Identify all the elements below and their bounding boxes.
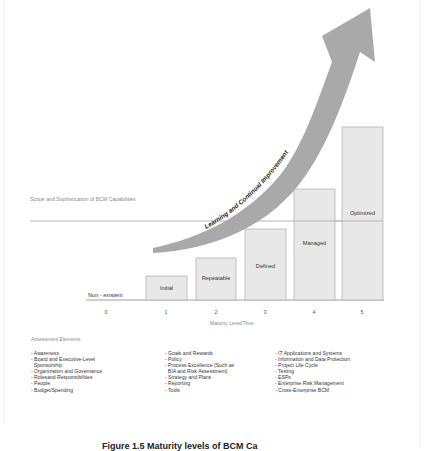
x-tick-1: 1 (156, 309, 176, 315)
level-label-initial: Initial (146, 285, 187, 291)
x-tick-2: 2 (206, 309, 226, 315)
assessment-column-3: - IT Applications and Systems - Informat… (275, 350, 350, 393)
level-label-managed: Managed (294, 240, 335, 246)
x-tick-4: 4 (304, 309, 324, 315)
level-label-optimized: Optimized (342, 210, 383, 216)
assessment-column-1: - Awareness - Board and Executive-Level … (31, 350, 102, 393)
assessment-item: - Budget/Spending (31, 387, 102, 393)
figure-caption: Figure 1.5 Maturity levels of BCM Ca (102, 441, 258, 451)
level-label-repeatable: Repeatable (196, 275, 236, 281)
scope-label: Scope and Sophistication of BCM Capabili… (30, 196, 140, 202)
x-axis-label: Maturity Level/Time (210, 320, 253, 326)
assessment-title: Assessment Elements (31, 336, 80, 342)
x-tick-0: 0 (96, 309, 116, 315)
baseline-label: Non - existent (88, 292, 123, 298)
assessment-column-2: - Goals and Rewards - Policy - Process E… (165, 350, 234, 393)
assessment-item: - Enterprise Risk Management (275, 380, 350, 386)
level-label-defined: Defined (245, 263, 286, 269)
x-tick-3: 3 (255, 309, 275, 315)
assessment-item: - Cross-Enterprise BCM (275, 387, 350, 393)
x-tick-5: 5 (352, 309, 372, 315)
assessment-item: - Tools (165, 387, 234, 393)
